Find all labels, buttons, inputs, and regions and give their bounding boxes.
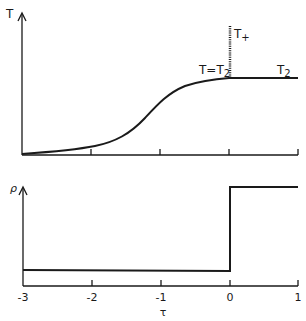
tick-label: 0 [227, 291, 234, 304]
tick-label: -3 [18, 291, 29, 304]
top-panel: T T+ T=T2 T2 [5, 7, 298, 155]
tick-label: -1 [156, 291, 167, 304]
bottom-panel: ρ -3 -2 -1 0 1 τ [10, 182, 302, 319]
diagram-canvas: T T+ T=T2 T2 ρ -3 -2 -1 0 1 τ [0, 0, 306, 321]
tick-label: -2 [87, 291, 98, 304]
x-axis-label: τ [160, 306, 167, 319]
bottom-y-axis-label: ρ [10, 182, 17, 195]
top-y-axis-label: T [5, 7, 14, 21]
density-step-curve [23, 187, 298, 271]
t-equals-t2-label: T=T2 [198, 63, 230, 79]
t-plus-label: T+ [233, 27, 250, 43]
tick-label: 1 [295, 291, 302, 304]
temperature-curve [22, 78, 298, 154]
t2-plateau-label: T2 [276, 63, 291, 79]
